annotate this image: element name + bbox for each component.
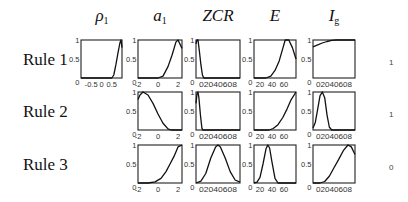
membership-curve (138, 40, 182, 78)
y-tick-label: 0.5 (242, 107, 252, 116)
x-tick-label: 40 (268, 132, 276, 141)
x-tick-label: 20 (256, 80, 264, 89)
column-header-label: E (270, 6, 280, 25)
membership-curve (138, 145, 182, 183)
x-tick-label: 40 (268, 80, 276, 89)
membership-plot-rule-2-a1: 10.50-202 (124, 90, 188, 142)
column-header-rho1: ρ1 (77, 6, 127, 26)
plot-frame (313, 40, 355, 78)
x-tick-label: 20 (256, 132, 264, 141)
x-tick-label: 2 (176, 132, 180, 141)
y-tick-label: 0 (248, 130, 252, 139)
x-tick-label: 0 (156, 132, 160, 141)
y-tick-label: 1 (190, 88, 194, 97)
membership-curve (254, 40, 296, 78)
x-tick-label: 2 (176, 185, 180, 194)
y-tick-label: 1 (307, 88, 311, 97)
x-tick-labels: 02040608 (199, 132, 237, 141)
membership-plot-rule-2-e: 10.50204060 (240, 90, 302, 142)
x-tick-labels: 02040608 (316, 185, 352, 194)
y-tick-label: 0.5 (242, 55, 252, 64)
rule-3-output: 0 (389, 163, 393, 172)
plot-frame (138, 145, 182, 183)
x-tick-label: 60 (280, 132, 288, 141)
y-tick-label: 1 (75, 36, 79, 45)
plot-frame (196, 92, 240, 130)
column-header-label: ρ (95, 6, 103, 25)
membership-plot-rule-3-ig: 10.5002040608 (299, 143, 361, 195)
membership-plot-rule-1-rho1: 10.50-0.500.5 (67, 38, 128, 90)
y-tick-label: 0.5 (301, 55, 311, 64)
x-tick-labels: 02040608 (316, 80, 352, 89)
y-tick-label: 0 (307, 183, 311, 192)
y-tick-label: 0.5 (126, 107, 136, 116)
y-tick-label: 0.5 (184, 55, 194, 64)
membership-plot-rule-3-zcr: 10.5002040608 (182, 143, 246, 195)
x-tick-label: 40 (268, 185, 276, 194)
column-header-subscript: 1 (104, 15, 109, 26)
membership-curve (81, 40, 122, 78)
x-tick-label: 60 (280, 185, 288, 194)
y-tick-label: 1 (248, 36, 252, 45)
y-tick-label: 0.5 (242, 160, 252, 169)
y-tick-label: 0 (248, 78, 252, 87)
column-header-a1: a1 (135, 6, 185, 26)
y-tick-label: 1 (132, 141, 136, 150)
plot-frame (254, 40, 296, 78)
rule-1-output: 1 (389, 58, 393, 67)
y-tick-label: 1 (132, 36, 136, 45)
x-tick-labels: 02040608 (199, 185, 237, 194)
x-tick-label: 0 (156, 185, 160, 194)
x-tick-label: 0 (156, 80, 160, 89)
row-label-rule-1: Rule 1 (23, 50, 68, 70)
membership-curve (313, 40, 355, 47)
y-tick-label: 0 (190, 130, 194, 139)
membership-plot-rule-1-e: 10.50204060 (240, 38, 302, 90)
y-tick-label: 0.5 (184, 107, 194, 116)
column-header-subscript: g (334, 15, 339, 26)
y-tick-label: 0.5 (184, 160, 194, 169)
rule-2-output: 1 (389, 110, 393, 119)
membership-curve (313, 92, 355, 130)
membership-curve (196, 145, 240, 183)
y-tick-label: 1 (190, 141, 194, 150)
membership-plot-rule-3-e: 10.50204060 (240, 143, 302, 195)
y-tick-label: 1 (307, 36, 311, 45)
y-tick-label: 0.5 (126, 55, 136, 64)
column-header-subscript: 1 (162, 15, 167, 26)
x-tick-label: -0.5 (85, 80, 98, 89)
x-tick-label: -2 (135, 185, 142, 194)
plot-frame (138, 92, 182, 130)
membership-curve (313, 145, 355, 183)
y-tick-label: 0 (248, 183, 252, 192)
y-tick-label: 0 (190, 78, 194, 87)
y-tick-label: 0 (190, 183, 194, 192)
membership-plot-rule-1-ig: 10.5002040608 (299, 38, 361, 90)
column-header-label: a (153, 6, 162, 25)
membership-plot-rule-1-a1: 10.50-202 (124, 38, 188, 90)
y-tick-label: 0.5 (301, 107, 311, 116)
y-tick-label: 1 (248, 141, 252, 150)
y-tick-label: 0 (75, 78, 79, 87)
x-tick-label: 20 (256, 185, 264, 194)
x-tick-label: -2 (135, 132, 142, 141)
membership-plot-rule-3-a1: 10.50-202 (124, 143, 188, 195)
column-header-ig: Ig (309, 6, 359, 26)
x-tick-labels: 02040608 (199, 80, 237, 89)
membership-curve (196, 92, 240, 130)
x-tick-label: 0.5 (107, 80, 117, 89)
y-tick-label: 0 (307, 78, 311, 87)
y-tick-label: 1 (248, 88, 252, 97)
y-tick-label: 1 (190, 36, 194, 45)
x-tick-label: 60 (280, 80, 288, 89)
membership-plot-rule-1-zcr: 10.5002040608 (182, 38, 246, 90)
membership-curve (254, 145, 296, 183)
column-header-zcr: ZCR (193, 6, 243, 26)
y-tick-label: 0 (307, 130, 311, 139)
row-label-rule-2: Rule 2 (23, 102, 68, 122)
y-tick-label: 0.5 (301, 160, 311, 169)
column-header-label: ZCR (202, 6, 233, 25)
x-tick-label: 0 (99, 80, 103, 89)
membership-curve (254, 92, 296, 130)
plot-frame (81, 40, 122, 78)
